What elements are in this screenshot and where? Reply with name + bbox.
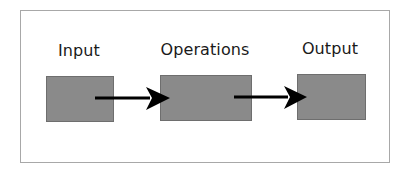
arrows-layer bbox=[0, 0, 411, 173]
arrow-operations-to-output bbox=[234, 86, 307, 109]
arrow-input-to-operations bbox=[95, 87, 170, 110]
